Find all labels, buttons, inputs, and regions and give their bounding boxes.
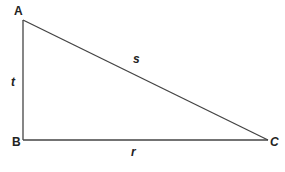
vertex-a-label: A [14, 4, 23, 18]
vertex-b-label: B [12, 135, 21, 149]
vertex-c-label: C [270, 135, 279, 149]
side-ac-line [23, 20, 268, 140]
triangle-diagram: A B C t s r [0, 0, 285, 172]
side-t-label: t [11, 75, 16, 89]
side-r-label: r [131, 145, 137, 159]
side-s-label: s [133, 52, 140, 66]
